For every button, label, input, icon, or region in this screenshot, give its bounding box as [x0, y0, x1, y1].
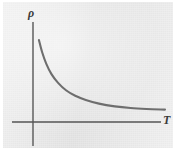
plot-canvas	[0, 0, 180, 154]
figure-container: ρ T	[0, 0, 180, 154]
x-axis-label-temperature: T	[163, 114, 170, 126]
y-axis-label-rho: ρ	[28, 7, 34, 19]
resistivity-curve	[39, 40, 165, 109]
